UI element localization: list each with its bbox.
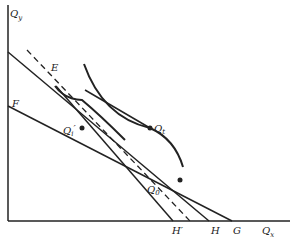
budget-line-H <box>8 52 209 221</box>
point-Q0 <box>178 178 183 183</box>
y-axis-label: Qy <box>10 8 23 22</box>
label-E: E <box>50 62 59 73</box>
budget-line-FG <box>8 106 232 221</box>
label-F: F <box>11 98 20 109</box>
label-Qi-prime: Qi′ <box>63 123 76 138</box>
label-G: G <box>233 225 241 236</box>
label-H-prime: H′ <box>171 225 184 236</box>
point-Qt <box>148 126 153 131</box>
diagram-canvas: Qy Qx E F Qt Qi′ Q0 H′ H G <box>0 0 292 241</box>
label-Q0: Q0 <box>147 184 160 197</box>
budget-line-H-prime <box>56 86 173 221</box>
tangent-line-Qt <box>85 90 150 128</box>
x-axis-label: Qx <box>262 225 274 239</box>
point-Qi-prime <box>80 126 85 131</box>
label-H: H <box>210 225 220 236</box>
dashed-line-E <box>27 50 190 221</box>
